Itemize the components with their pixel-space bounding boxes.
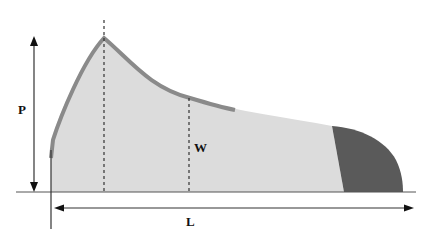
profile-light-region (51, 38, 344, 192)
p-arrow-up-icon (30, 36, 38, 46)
w-label: W (194, 140, 207, 155)
l-arrow-right-icon (404, 205, 414, 212)
l-label: L (186, 214, 195, 229)
profile-dark-region (332, 126, 403, 192)
l-arrow-left-icon (54, 205, 64, 212)
pressure-profile-diagram: P W L (0, 0, 428, 244)
p-arrow-down-icon (30, 182, 38, 192)
p-label: P (18, 102, 26, 117)
